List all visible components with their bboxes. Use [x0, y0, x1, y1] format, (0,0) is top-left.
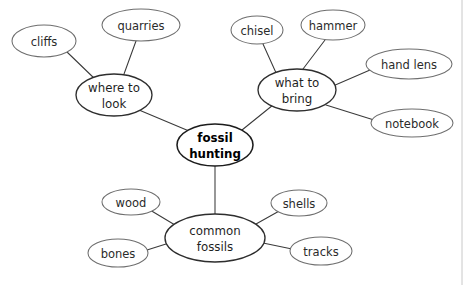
- node-shells[interactable]: shells: [271, 190, 327, 216]
- node-notebook[interactable]: notebook: [371, 109, 453, 137]
- node-chisel[interactable]: chisel: [231, 16, 283, 44]
- what-to-bring-label-line1: what to: [275, 76, 320, 90]
- where-to-look-label-line1: where to: [88, 81, 140, 95]
- fossil-hunting-label-line1: fossil: [197, 131, 232, 145]
- edge-what-to-bring-to-hand-lens: [333, 70, 370, 86]
- edge-where-to-look-to-cliffs: [67, 52, 96, 80]
- tracks-label: tracks: [303, 245, 338, 259]
- common-fossils-label-line2: fossils: [197, 240, 233, 254]
- quarries-label: quarries: [117, 19, 164, 33]
- node-tracks[interactable]: tracks: [290, 237, 352, 265]
- mind-map-diagram: cliffs quarries chisel hammer hand lens …: [0, 0, 471, 285]
- common-fossils-label-line1: common: [189, 224, 240, 238]
- node-what-to-bring[interactable]: what to bring: [258, 69, 336, 111]
- node-hand-lens[interactable]: hand lens: [366, 49, 452, 79]
- node-where-to-look[interactable]: where to look: [76, 74, 152, 116]
- edge-common-fossils-to-wood: [150, 210, 175, 225]
- wood-label: wood: [116, 196, 147, 210]
- node-hammer[interactable]: hammer: [301, 10, 365, 40]
- node-wood[interactable]: wood: [102, 189, 160, 215]
- node-bones[interactable]: bones: [88, 239, 148, 267]
- edge-center-to-what-to-bring: [242, 105, 273, 130]
- where-to-look-label-line2: look: [102, 97, 127, 111]
- node-fossil-hunting[interactable]: fossil hunting: [177, 124, 253, 166]
- what-to-bring-label-line2: bring: [282, 92, 313, 106]
- node-common-fossils[interactable]: common fossils: [165, 214, 265, 262]
- edge-what-to-bring-to-chisel: [263, 44, 277, 75]
- edge-common-fossils-to-tracks: [263, 243, 292, 249]
- fossil-hunting-label-line2: hunting: [189, 147, 241, 161]
- hammer-label: hammer: [309, 19, 358, 33]
- edge-what-to-bring-to-hammer: [303, 40, 325, 69]
- chisel-label: chisel: [240, 24, 273, 38]
- mind-map-canvas: cliffs quarries chisel hammer hand lens …: [0, 0, 471, 285]
- common-fossils-ellipse: [165, 214, 265, 262]
- node-quarries[interactable]: quarries: [102, 9, 180, 41]
- edge-center-to-where-to-look: [139, 110, 189, 131]
- edge-what-to-bring-to-notebook: [326, 105, 374, 120]
- cliffs-label: cliffs: [31, 35, 58, 49]
- notebook-label: notebook: [385, 117, 439, 131]
- edge-common-fossils-to-bones: [147, 244, 166, 250]
- edge-where-to-look-to-quarries: [124, 41, 136, 74]
- hand-lens-label: hand lens: [381, 58, 437, 72]
- edge-common-fossils-to-shells: [256, 210, 281, 224]
- bones-label: bones: [101, 247, 136, 261]
- shells-label: shells: [283, 197, 316, 211]
- node-cliffs[interactable]: cliffs: [12, 25, 76, 57]
